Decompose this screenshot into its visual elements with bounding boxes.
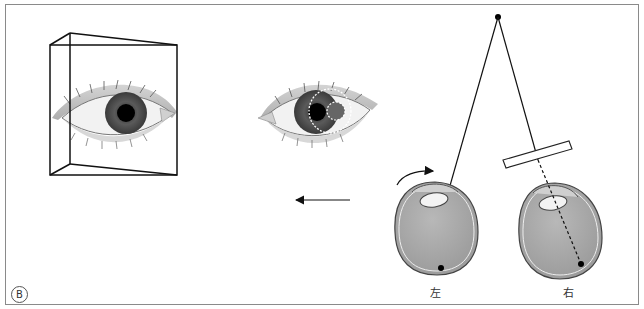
panel-label-badge: B (11, 286, 28, 303)
diagram-canvas (0, 0, 644, 309)
right-eye-label: 右 (563, 284, 574, 300)
prism-plate (503, 141, 572, 168)
right-eyeball (519, 183, 602, 279)
left-eye-label: 左 (430, 284, 441, 300)
left-eyeball (395, 182, 478, 275)
right-retinal-point (578, 261, 584, 267)
displaced-iris-eye-illustration (258, 81, 378, 148)
right-incoming-ray (498, 17, 538, 160)
